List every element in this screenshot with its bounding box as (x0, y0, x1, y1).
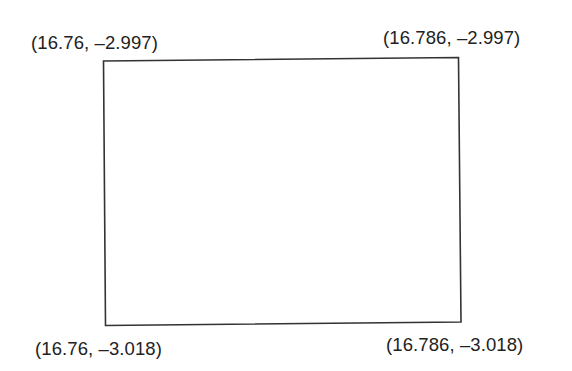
corner-label-bottom-left: (16.76, –3.018) (35, 340, 162, 359)
bounding-box-outline (104, 58, 462, 326)
bounding-box-shape (0, 0, 572, 371)
corner-label-bottom-right: (16.786, –3.018) (386, 336, 523, 355)
corner-label-top-left: (16.76, –2.997) (31, 34, 158, 53)
corner-label-top-right: (16.786, –2.997) (383, 29, 520, 48)
bounding-box-diagram: (16.76, –2.997) (16.786, –2.997) (16.76,… (0, 0, 572, 371)
